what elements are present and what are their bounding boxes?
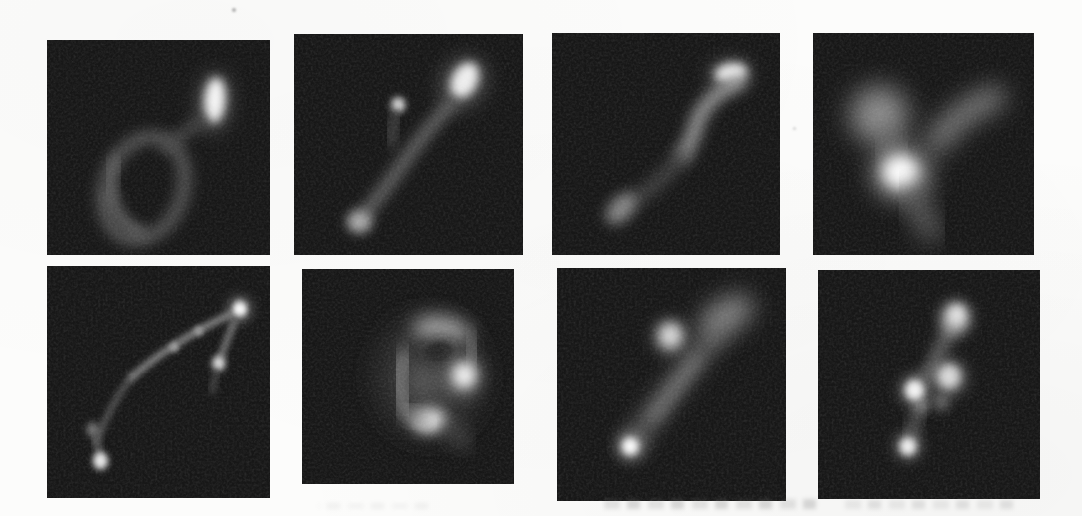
micrograph-tile-r2c1 bbox=[47, 266, 270, 498]
micrograph-tile-r2c2 bbox=[302, 269, 514, 484]
micrograph-tile-r1c1 bbox=[47, 40, 270, 255]
micrograph-tile-r1c2 bbox=[294, 34, 523, 255]
dust-speck-artifact bbox=[793, 127, 796, 130]
dust-speck-artifact bbox=[232, 8, 236, 12]
micrograph-tile-r2c3 bbox=[557, 268, 786, 501]
micrograph-tile-r1c3 bbox=[552, 33, 780, 255]
scanned-page bbox=[0, 0, 1082, 516]
micrograph-tile-r1c4 bbox=[813, 33, 1034, 255]
print-bleed-artifact bbox=[845, 500, 1013, 509]
micrograph-tile-r2c4 bbox=[818, 270, 1040, 499]
print-bleed-artifact bbox=[318, 503, 428, 509]
